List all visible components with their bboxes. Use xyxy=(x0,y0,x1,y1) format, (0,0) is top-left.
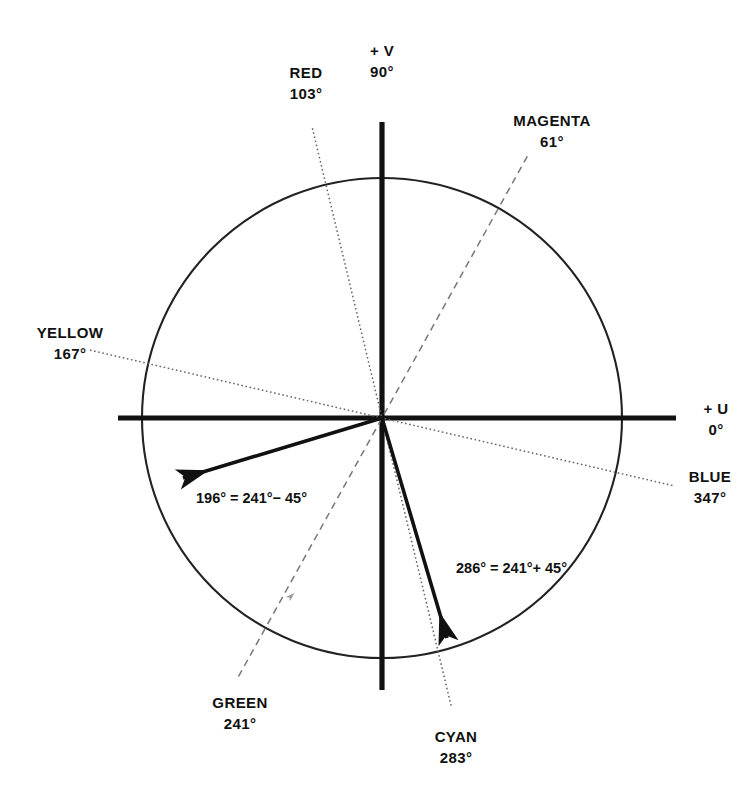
equation-burst-286-line1: 286° = xyxy=(456,560,499,576)
label-red: RED 103° xyxy=(271,62,341,104)
label-v-axis: + V 90° xyxy=(343,40,421,82)
equation-burst-286-line2: 241°+ 45° xyxy=(503,560,567,576)
label-u-axis-name: + U xyxy=(685,398,747,419)
burst-vector-196 xyxy=(183,418,382,478)
equation-burst-196-line1: 196° = xyxy=(196,490,239,506)
label-green-name: GREEN xyxy=(200,692,280,713)
equation-burst-286: 286° = 241°+ 45° xyxy=(456,557,567,579)
green-arrowhead-stub xyxy=(289,560,330,598)
label-blue: BLUE 347° xyxy=(678,466,742,508)
label-cyan-name: CYAN xyxy=(421,726,491,747)
label-yellow-angle: 167° xyxy=(24,343,116,364)
equation-burst-196-line2: 241°− 45° xyxy=(243,490,307,506)
label-u-axis-angle: 0° xyxy=(685,419,747,440)
label-v-axis-angle: 90° xyxy=(343,61,421,82)
label-magenta-angle: 61° xyxy=(497,131,607,152)
burst-vector-286 xyxy=(382,418,447,638)
label-yellow: YELLOW 167° xyxy=(24,322,116,364)
label-blue-name: BLUE xyxy=(678,466,742,487)
label-green-angle: 241° xyxy=(200,713,280,734)
label-u-axis: + U 0° xyxy=(685,398,747,440)
label-yellow-name: YELLOW xyxy=(24,322,116,343)
label-red-angle: 103° xyxy=(271,83,341,104)
label-blue-angle: 347° xyxy=(678,487,742,508)
label-magenta: MAGENTA 61° xyxy=(497,110,607,152)
label-cyan-angle: 283° xyxy=(421,747,491,768)
label-v-axis-name: + V xyxy=(343,40,421,61)
label-green: GREEN 241° xyxy=(200,692,280,734)
uv-plot-canvas xyxy=(0,0,754,806)
label-cyan: CYAN 283° xyxy=(421,726,491,768)
label-red-name: RED xyxy=(271,62,341,83)
label-magenta-name: MAGENTA xyxy=(497,110,607,131)
uv-phase-diagram: + V 90° + U 0° RED 103° MAGENTA 61° YELL… xyxy=(0,0,754,806)
equation-burst-196: 196° = 241°− 45° xyxy=(196,487,307,509)
